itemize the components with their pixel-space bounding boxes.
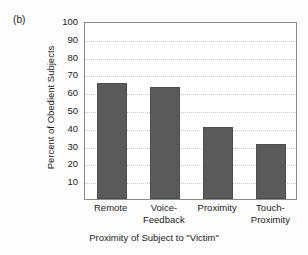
x-tick-touch-proximity: Touch-Proximity xyxy=(230,202,308,226)
y-tick-10: 10 xyxy=(50,177,78,187)
bar-proximity xyxy=(203,127,233,199)
bar-touch-proximity xyxy=(256,144,286,199)
y-tick-90: 90 xyxy=(50,35,78,45)
bar-voice-feedback xyxy=(150,87,180,199)
y-tick-20: 20 xyxy=(50,160,78,170)
y-tick-30: 30 xyxy=(50,142,78,152)
y-tick-50: 50 xyxy=(50,106,78,116)
plot-area xyxy=(84,22,297,200)
gridline-70 xyxy=(85,76,296,77)
bar-remote xyxy=(97,83,127,199)
y-tick-100: 100 xyxy=(50,17,78,27)
y-tick-60: 60 xyxy=(50,88,78,98)
x-axis-tick-labels: RemoteVoice-FeedbackProximityTouch-Proxi… xyxy=(84,202,297,228)
gridline-80 xyxy=(85,59,296,60)
figure-panel-b: (b) Percent of Obedient Subjects 1009080… xyxy=(0,0,308,255)
y-axis-tick-labels: 100908070605040302010 xyxy=(50,22,78,200)
y-tick-80: 80 xyxy=(50,53,78,63)
y-tick-40: 40 xyxy=(50,124,78,134)
y-tick-70: 70 xyxy=(50,71,78,81)
x-axis-title: Proximity of Subject to "Victim" xyxy=(0,232,308,243)
gridline-90 xyxy=(85,41,296,42)
panel-label: (b) xyxy=(13,14,26,25)
